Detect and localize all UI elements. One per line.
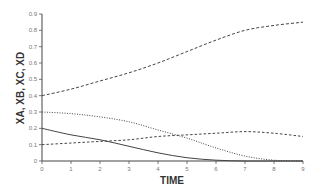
y-tick-label: 0 [34, 158, 38, 164]
y-tick-label: 0.1 [29, 142, 38, 148]
x-tick-label: 5 [185, 166, 189, 172]
x-tick-label: 3 [127, 166, 131, 172]
line-chart: 012345678900.10.20.30.40.50.60.70.80.9 T… [0, 0, 317, 189]
x-tick-label: 1 [69, 166, 73, 172]
x-axis-label: TIME [160, 175, 184, 186]
y-tick-label: 0.2 [29, 125, 38, 131]
chart: 012345678900.10.20.30.40.50.60.70.80.9 T… [0, 0, 317, 189]
y-tick-label: 0.7 [29, 44, 38, 50]
x-tick-label: 7 [243, 166, 247, 172]
x-tick-label: 6 [214, 166, 218, 172]
x-tick-label: 2 [98, 166, 102, 172]
y-tick-label: 0.3 [29, 109, 38, 115]
x-tick-label: 4 [156, 166, 160, 172]
x-tick-label: 0 [40, 166, 44, 172]
y-tick-label: 0.8 [29, 27, 38, 33]
x-tick-label: 8 [272, 166, 276, 172]
y-axis-label: XA, XB, XC, XD [15, 52, 26, 124]
x-tick-label: 9 [301, 166, 305, 172]
y-tick-label: 0.6 [29, 60, 38, 66]
y-tick-label: 0.5 [29, 76, 38, 82]
y-tick-label: 0.4 [29, 93, 38, 99]
series-line-xd [42, 128, 303, 161]
series-line-xa [42, 22, 303, 96]
y-tick-label: 0.9 [29, 11, 38, 17]
